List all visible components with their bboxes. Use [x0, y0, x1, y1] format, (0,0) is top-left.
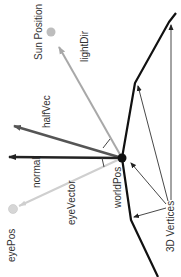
- half-vec-label: halfVec: [41, 95, 52, 128]
- angle-arc-icon: [102, 158, 104, 167]
- light-dir-label: lightDir: [79, 30, 90, 62]
- world-pos-icon: [118, 154, 127, 163]
- angle-arc-icon: [103, 139, 110, 148]
- normal-label: normal: [31, 157, 42, 188]
- vertex-pointer: [134, 208, 166, 217]
- eye-pos-icon: [9, 205, 18, 214]
- vertex-pointer: [131, 163, 166, 204]
- lighting-diagram: Sun Position lightDir halfVec normal eye…: [0, 0, 181, 277]
- normal-vector: [9, 157, 122, 158]
- sun-position-icon: [47, 28, 56, 37]
- vertices-label: 3D Vertices: [165, 201, 176, 252]
- eye-vector-label: eyeVector: [66, 180, 77, 225]
- sun-position-label: Sun Position: [33, 4, 44, 60]
- vertex-pointer: [138, 86, 168, 201]
- diagram-svg: Sun Position lightDir halfVec normal eye…: [0, 0, 181, 277]
- eye-pos-label: eyePos: [6, 229, 17, 262]
- world-pos-label: worldPos: [112, 167, 123, 209]
